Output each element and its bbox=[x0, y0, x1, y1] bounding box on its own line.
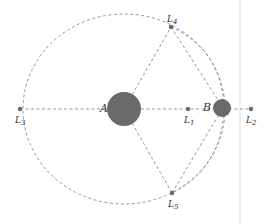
point-l2 bbox=[249, 107, 253, 111]
label-l1: L1 bbox=[183, 115, 194, 127]
label-l4: L4 bbox=[166, 14, 177, 26]
label-l2: L2 bbox=[245, 115, 257, 127]
l5-b-line bbox=[172, 116, 218, 193]
label-a: A bbox=[99, 102, 108, 115]
l4-b-line bbox=[171, 27, 218, 100]
point-l1 bbox=[186, 107, 190, 111]
label-b: B bbox=[202, 101, 211, 114]
body-b bbox=[213, 99, 231, 117]
label-l3: L3 bbox=[14, 115, 26, 127]
point-l5 bbox=[170, 191, 174, 195]
body-a bbox=[107, 92, 141, 126]
label-l5: L5 bbox=[167, 199, 179, 211]
lagrange-diagram: A B L1 L2 L3 L4 L5 bbox=[0, 0, 268, 224]
point-l3 bbox=[18, 107, 22, 111]
